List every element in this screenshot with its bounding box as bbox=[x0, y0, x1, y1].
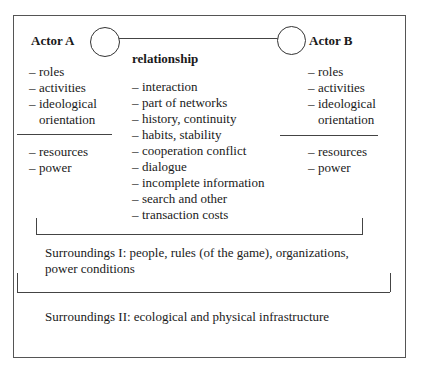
list-item: orientation bbox=[29, 112, 97, 128]
actor-b-capacities: –resources –power bbox=[308, 144, 367, 176]
bracket-1-right bbox=[362, 218, 363, 234]
actor-b-label: Actor B bbox=[309, 33, 352, 49]
list-item: –power bbox=[29, 160, 88, 176]
list-item: –ideological bbox=[308, 96, 376, 112]
actor-a-label: Actor A bbox=[31, 33, 74, 49]
actor-a-node-icon bbox=[90, 27, 120, 57]
list-item: orientation bbox=[308, 112, 376, 128]
surroundings-1-line2: power conditions bbox=[45, 261, 135, 277]
list-item: –habits, stability bbox=[132, 127, 264, 143]
list-item: –dialogue bbox=[132, 159, 264, 175]
list-item: –roles bbox=[308, 64, 376, 80]
list-item: –power bbox=[308, 160, 367, 176]
actor-b-node-icon bbox=[277, 26, 306, 55]
list-item: –roles bbox=[29, 64, 97, 80]
surroundings-2-label: Surroundings II: ecological and physical… bbox=[45, 309, 329, 325]
actor-b-separator bbox=[280, 135, 378, 136]
actor-a-capacities: –resources –power bbox=[29, 144, 88, 176]
list-item: –activities bbox=[308, 80, 376, 96]
surroundings-1-line1: Surroundings I: people, rules (of the ga… bbox=[45, 245, 349, 261]
bracket-2-left bbox=[17, 273, 18, 292]
list-item: –cooperation conflict bbox=[132, 143, 264, 159]
relationship-connector-line bbox=[119, 38, 278, 39]
bracket-1-bottom bbox=[36, 234, 363, 235]
bracket-2-right bbox=[390, 273, 391, 292]
bracket-2-bottom bbox=[17, 292, 390, 293]
actor-b-attributes: –roles –activities –ideological orientat… bbox=[308, 64, 376, 128]
relationship-items: –interaction –part of networks –history,… bbox=[132, 79, 264, 223]
list-item: –incomplete information bbox=[132, 175, 264, 191]
relationship-label: relationship bbox=[132, 51, 198, 67]
list-item: –ideological bbox=[29, 96, 97, 112]
bracket-1-left bbox=[36, 218, 37, 234]
list-item: –part of networks bbox=[132, 95, 264, 111]
list-item: –transaction costs bbox=[132, 207, 264, 223]
list-item: –search and other bbox=[132, 191, 264, 207]
list-item: –activities bbox=[29, 80, 97, 96]
actor-a-attributes: –roles –activities –ideological orientat… bbox=[29, 64, 97, 128]
list-item: –history, continuity bbox=[132, 111, 264, 127]
list-item: –resources bbox=[29, 144, 88, 160]
actor-a-separator bbox=[17, 134, 112, 135]
list-item: –resources bbox=[308, 144, 367, 160]
list-item: –interaction bbox=[132, 79, 264, 95]
